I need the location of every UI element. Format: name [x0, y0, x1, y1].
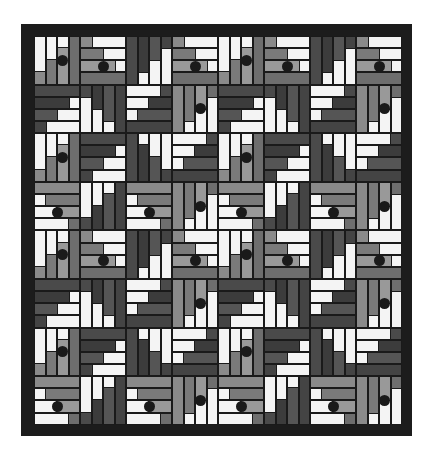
quilt-square: [264, 36, 310, 85]
quilt-strip-white: [368, 315, 380, 327]
button-dot-icon: [328, 207, 339, 218]
button-dot-icon: [98, 255, 109, 266]
quilt-strip-white: [184, 413, 196, 425]
quilt-strip: [34, 182, 80, 194]
button-dot-icon: [236, 401, 247, 412]
quilt-strip-white: [46, 315, 81, 327]
quilt-strip-white: [218, 328, 230, 364]
quilt-strip: [80, 133, 126, 145]
quilt-strip-white: [287, 315, 299, 327]
quilt-strip-white: [34, 133, 46, 169]
quilt-strip: [356, 85, 368, 134]
quilt-square: [218, 133, 264, 182]
quilt-strip-white: [92, 182, 104, 206]
quilt-square: [80, 328, 126, 377]
quilt-strip: [126, 328, 138, 377]
quilt-strip: [356, 376, 368, 425]
quilt-strip-white: [241, 303, 264, 315]
quilt-strip: [172, 267, 218, 279]
quilt-strip-white: [218, 413, 253, 425]
quilt-strip-white: [310, 85, 345, 97]
quilt-strip-white: [80, 376, 92, 412]
quilt-strip-white: [310, 109, 322, 121]
quilt-square: [356, 182, 402, 231]
quilt-strip-white: [195, 243, 218, 255]
quilt-strip: [115, 182, 127, 231]
quilt-strip: [264, 72, 310, 84]
quilt-strip-white: [368, 413, 380, 425]
quilt-square: [126, 36, 172, 85]
quilt-strip: [310, 230, 322, 279]
quilt-strip: [126, 133, 138, 182]
quilt-square: [80, 376, 126, 425]
quilt-strip: [69, 36, 81, 85]
quilt-strip-white: [138, 133, 150, 145]
quilt-strip: [80, 72, 126, 84]
quilt-strip-white: [230, 230, 242, 254]
quilt-strip-white: [356, 145, 379, 157]
quilt-strip-white: [322, 133, 334, 145]
quilt-strip-white: [34, 36, 46, 72]
quilt-strip-white: [57, 328, 69, 340]
quilt-strip-white: [69, 291, 81, 303]
quilt-square: [126, 376, 172, 425]
quilt-strip-white: [345, 133, 357, 169]
quilt-strip: [356, 364, 402, 376]
quilt-strip-white: [287, 376, 299, 388]
quilt-strip: [115, 376, 127, 425]
quilt-strip-white: [276, 376, 288, 400]
quilt-strip: [310, 182, 356, 194]
quilt-strip: [253, 230, 265, 279]
quilt-strip: [218, 85, 264, 97]
quilt-strip-white: [126, 109, 138, 121]
quilt-strip-white: [264, 97, 276, 133]
quilt-strip-white: [218, 133, 230, 169]
quilt-strip-white: [126, 413, 161, 425]
quilt-square: [356, 85, 402, 134]
quilt-strip-white: [218, 230, 230, 266]
quilt-strip-white: [172, 328, 207, 340]
quilt-strip-white: [103, 121, 115, 133]
quilt-strip: [126, 36, 138, 85]
quilt-square: [126, 328, 172, 377]
quilt-strip: [126, 182, 172, 194]
quilt-strip: [356, 170, 402, 182]
quilt-strip-white: [287, 157, 310, 169]
quilt-strip-white: [276, 182, 288, 206]
quilt-strip-white: [310, 97, 333, 109]
quilt-strip-white: [333, 255, 345, 279]
quilt-square: [80, 133, 126, 182]
quilt-square: [126, 230, 172, 279]
quilt-strip-white: [57, 36, 69, 48]
quilt-square: [310, 376, 356, 425]
quilt-grid: [34, 36, 402, 425]
quilt-square: [310, 36, 356, 85]
quilt-strip-white: [379, 243, 402, 255]
quilt-strip-white: [69, 97, 81, 109]
quilt-strip-white: [161, 133, 173, 169]
quilt-strip-white: [92, 230, 127, 242]
quilt-square: [126, 85, 172, 134]
quilt-strip: [299, 279, 311, 328]
quilt-square: [310, 133, 356, 182]
quilt-strip-white: [322, 72, 334, 84]
quilt-strip-white: [241, 133, 253, 145]
button-dot-icon: [190, 255, 201, 266]
quilt-strip: [69, 230, 81, 279]
quilt-square: [356, 328, 402, 377]
quilt-square: [356, 376, 402, 425]
quilt-strip-white: [103, 182, 115, 194]
quilt-strip-white: [333, 133, 345, 157]
quilt-strip: [310, 36, 322, 85]
quilt-strip-white: [161, 328, 173, 364]
quilt-strip-white: [391, 291, 403, 327]
button-dot-icon: [195, 201, 206, 212]
button-dot-icon: [98, 61, 109, 72]
quilt-square: [34, 36, 80, 85]
quilt-strip-white: [287, 182, 299, 194]
quilt-strip-white: [230, 328, 242, 352]
quilt-square: [218, 85, 264, 134]
quilt-strip-white: [276, 303, 288, 327]
quilt-strip-white: [264, 376, 276, 412]
button-dot-icon: [57, 55, 68, 66]
